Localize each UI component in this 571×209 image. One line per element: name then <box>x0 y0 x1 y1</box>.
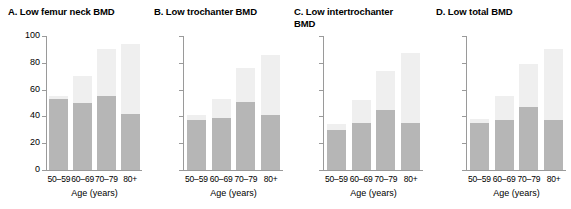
bar-segment-lower <box>73 103 92 170</box>
bar-segment-lower <box>327 130 346 170</box>
panel-b-x-axis-label: Age (years) <box>184 188 283 198</box>
bar-stack[interactable] <box>401 53 420 170</box>
ytick-label-40: 40 <box>14 110 40 120</box>
xtick-label: 70–79 <box>95 174 119 184</box>
panel-c-plot <box>288 36 428 170</box>
bar-segment-lower <box>401 123 420 170</box>
xtick-label: 70–79 <box>234 174 259 184</box>
bar-segment-lower <box>495 120 514 170</box>
ytick-label-100: 100 <box>14 30 40 40</box>
bar-segment-lower <box>376 110 395 170</box>
bar-stack[interactable] <box>519 64 538 170</box>
panel-d-x-axis-label: Age (years) <box>467 188 566 198</box>
panel-d-ytick-80 <box>462 63 466 64</box>
bar-segment-lower <box>352 123 371 170</box>
bar-segment-lower <box>519 107 538 170</box>
bar-group <box>349 36 374 170</box>
y-axis-label: Percent <box>0 92 1 126</box>
bar-segment-upper <box>236 68 255 102</box>
panel-a-ytick-60 <box>42 90 46 91</box>
ytick-label-0: 0 <box>14 164 40 174</box>
panel-a-x-axis <box>46 170 142 171</box>
bar-segment-upper <box>97 49 116 96</box>
ytick-label-80: 80 <box>14 57 40 67</box>
panel-d-ytick-40 <box>462 116 466 117</box>
panel-c-x-axis-label: Age (years) <box>324 188 423 198</box>
panel-b-x-axis <box>183 170 283 171</box>
bar-stack[interactable] <box>73 76 92 170</box>
panel-d-xticks: 50–59 60–69 70–79 80+ <box>467 174 566 184</box>
panel-c-title: C. Low intertrochanter BMD <box>294 6 393 29</box>
panel-a-xticks: 50–59 60–69 70–79 80+ <box>47 174 142 184</box>
panel-a-plot: Percent 0 20 40 60 80 100 <box>0 36 148 170</box>
xtick-label: 50–59 <box>184 174 209 184</box>
panel-d-plot <box>428 36 571 170</box>
bar-stack[interactable] <box>544 49 563 170</box>
bar-group <box>118 36 142 170</box>
panel-b-plot <box>148 36 288 170</box>
bar-stack[interactable] <box>495 96 514 170</box>
bar-segment-lower <box>49 99 68 170</box>
bar-segment-upper <box>121 44 140 114</box>
bar-segment-upper <box>519 64 538 107</box>
bar-stack[interactable] <box>97 49 116 170</box>
panel-c-bars <box>324 36 423 170</box>
panel-d-ytick-60 <box>462 90 466 91</box>
xtick-label: 60–69 <box>209 174 234 184</box>
bar-group <box>209 36 234 170</box>
bar-group <box>184 36 209 170</box>
panel-d-title: D. Low total BMD <box>436 6 513 18</box>
bar-group <box>492 36 517 170</box>
bar-stack[interactable] <box>376 71 395 170</box>
xtick-label: 60–69 <box>492 174 517 184</box>
panel-b-bars <box>184 36 283 170</box>
bar-segment-upper <box>212 99 231 118</box>
panel-c-ytick-80 <box>319 63 323 64</box>
bar-segment-upper <box>352 100 371 123</box>
xtick-label: 60–69 <box>349 174 374 184</box>
xtick-label: 80+ <box>541 174 566 184</box>
bar-stack[interactable] <box>212 99 231 170</box>
panel-b-ytick-100 <box>179 36 183 37</box>
panel-b-ytick-80 <box>179 63 183 64</box>
ytick-label-20: 20 <box>14 137 40 147</box>
bar-stack[interactable] <box>49 96 68 170</box>
bar-segment-lower <box>470 123 489 170</box>
bar-stack[interactable] <box>121 44 140 170</box>
panel-c-ytick-60 <box>319 90 323 91</box>
panel-c-ytick-40 <box>319 116 323 117</box>
bar-stack[interactable] <box>470 119 489 170</box>
bar-segment-upper <box>495 96 514 120</box>
bar-group <box>517 36 542 170</box>
bar-stack[interactable] <box>352 100 371 170</box>
panel-a-x-axis-label: Age (years) <box>47 188 142 198</box>
bar-segment-upper <box>544 49 563 120</box>
panel-b-ytick-20 <box>179 143 183 144</box>
xtick-label: 50–59 <box>47 174 71 184</box>
bmd-prevalence-figure: A. Low femur neck BMD Percent 0 20 40 60… <box>0 0 571 209</box>
panel-b-title: B. Low trochanter BMD <box>154 6 257 18</box>
xtick-label: 60–69 <box>71 174 95 184</box>
panel-b: B. Low trochanter BMD <box>148 0 288 209</box>
panel-c: C. Low intertrochanter BMD <box>288 0 428 209</box>
panel-a: A. Low femur neck BMD Percent 0 20 40 60… <box>0 0 148 209</box>
xtick-label: 80+ <box>398 174 423 184</box>
panel-a-ytick-80 <box>42 63 46 64</box>
bar-segment-upper <box>376 71 395 110</box>
panel-c-x-axis <box>323 170 423 171</box>
xtick-label: 50–59 <box>324 174 349 184</box>
panel-b-ytick-60 <box>179 90 183 91</box>
xtick-label: 70–79 <box>374 174 399 184</box>
bar-group <box>324 36 349 170</box>
bar-stack[interactable] <box>327 124 346 170</box>
bar-group <box>95 36 119 170</box>
bar-segment-lower <box>121 114 140 170</box>
bar-stack[interactable] <box>261 55 280 170</box>
bar-stack[interactable] <box>236 68 255 170</box>
panel-c-ytick-100 <box>319 36 323 37</box>
panel-a-ytick-20 <box>42 143 46 144</box>
bar-stack[interactable] <box>187 115 206 170</box>
bar-group <box>258 36 283 170</box>
bar-group <box>374 36 399 170</box>
bar-group <box>398 36 423 170</box>
